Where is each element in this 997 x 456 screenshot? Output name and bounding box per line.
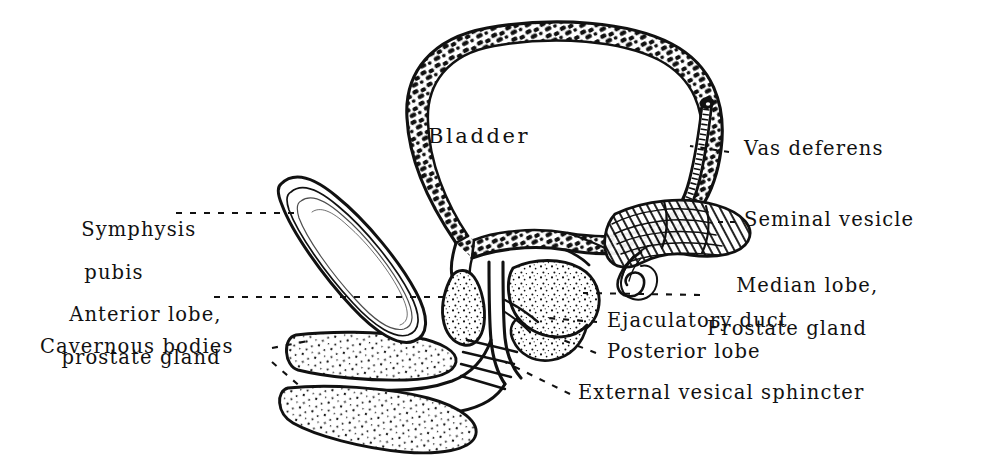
symphysis-pubis bbox=[278, 177, 425, 342]
leader-median-lobe bbox=[583, 293, 700, 295]
label-median-lobe-line1: Median lobe, bbox=[736, 274, 878, 297]
label-bladder: Bladder bbox=[428, 125, 530, 149]
label-seminal-vesicle: Seminal vesicle bbox=[744, 209, 914, 231]
label-symphysis-pubis-line2: pubis bbox=[52, 262, 176, 283]
prostate-anterior-lobe bbox=[442, 270, 484, 345]
label-vas-deferens: Vas deferens bbox=[744, 138, 884, 160]
label-symphysis-pubis-line1: Symphysis bbox=[81, 218, 196, 241]
label-external-vesical-sphincter: External vesical sphincter bbox=[578, 382, 864, 404]
label-cavernous-bodies: Cavernous bodies bbox=[40, 336, 234, 358]
label-anterior-lobe-line1: Anterior lobe, bbox=[69, 303, 221, 326]
figure-canvas: Bladder Vas deferens Seminal vesicle Med… bbox=[0, 0, 997, 456]
label-ejaculatory-duct: Ejaculatory duct bbox=[607, 310, 788, 332]
leader-external-sphincter bbox=[505, 362, 570, 394]
label-posterior-lobe: Posterior lobe bbox=[607, 341, 761, 363]
cavernous-bodies bbox=[280, 332, 477, 453]
